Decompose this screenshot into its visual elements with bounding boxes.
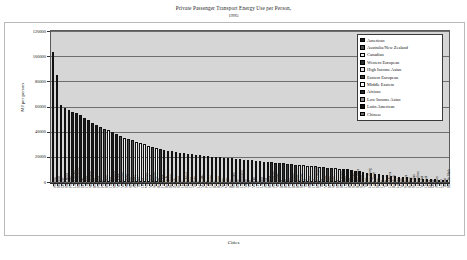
legend-item-label: Western European	[367, 60, 399, 65]
legend-swatch-icon	[360, 53, 365, 58]
legend-item-label: Low Income Asian	[367, 97, 400, 102]
x-axis-label: Cities	[0, 240, 467, 245]
bar	[60, 105, 62, 182]
bar	[52, 52, 54, 182]
bar	[95, 125, 97, 182]
legend-item: Low Income Asian	[360, 96, 440, 103]
legend-item: Australia/New Zealand	[360, 44, 440, 51]
legend-swatch-icon	[360, 67, 365, 72]
legend-item: American	[360, 37, 440, 44]
chart-legend: AmericanAustralia/New ZealandCanadianWes…	[357, 34, 443, 121]
legend-item-label: Chinese	[367, 112, 381, 117]
legend-item-label: High Income Asian	[367, 67, 401, 72]
legend-swatch-icon	[360, 60, 365, 65]
legend-item-label: Latin American	[367, 104, 394, 109]
legend-item-label: Eastern European	[367, 75, 398, 80]
legend-item-label: African	[367, 89, 380, 94]
legend-swatch-icon	[360, 38, 365, 43]
legend-swatch-icon	[360, 75, 365, 80]
legend-item: Middle Eastern	[360, 81, 440, 88]
bar	[56, 75, 58, 182]
bar	[99, 127, 101, 182]
legend-item: Western European	[360, 59, 440, 66]
legend-swatch-icon	[360, 82, 365, 87]
bar	[103, 129, 105, 182]
legend-swatch-icon	[360, 45, 365, 50]
bar	[83, 118, 85, 182]
legend-item: High Income Asian	[360, 66, 440, 73]
legend-item-label: American	[367, 38, 384, 43]
bar	[64, 108, 66, 182]
x-tick-label: Ho Chi Minh	[448, 169, 452, 188]
legend-item: Canadian	[360, 51, 440, 58]
legend-item: Eastern European	[360, 73, 440, 80]
legend-swatch-icon	[360, 97, 365, 102]
legend-item-label: Middle Eastern	[367, 82, 394, 87]
chart-subtitle: 1995	[0, 12, 467, 20]
page-title: Private Passenger Transport Energy Use p…	[0, 4, 467, 12]
bar	[68, 110, 70, 182]
chart-title-block: Private Passenger Transport Energy Use p…	[0, 4, 467, 20]
legend-swatch-icon	[360, 112, 365, 117]
legend-swatch-icon	[360, 90, 365, 95]
legend-item-label: Canadian	[367, 52, 384, 57]
legend-item: Chinese	[360, 110, 440, 117]
legend-swatch-icon	[360, 104, 365, 109]
legend-item-label: Australia/New Zealand	[367, 45, 408, 50]
legend-item: African	[360, 88, 440, 95]
legend-item: Latin American	[360, 103, 440, 110]
chart-figure: Private Passenger Transport Energy Use p…	[0, 0, 467, 260]
